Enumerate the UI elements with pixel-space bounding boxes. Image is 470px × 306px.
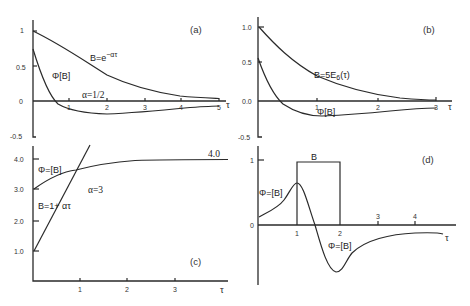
panel-c-asymptote-label: 4.0 xyxy=(208,149,220,159)
panel-a-xtick: 3 xyxy=(143,104,147,111)
panel-a-xtick: 4 xyxy=(179,104,183,111)
panel-a-xtick: 1 xyxy=(67,104,71,111)
panel-c-xtick: 1 xyxy=(78,286,82,293)
panel-a-curve-B xyxy=(33,31,219,99)
panel-b-curve-B xyxy=(259,27,436,100)
panel-d: 1 0 1 2 3 4 τ B Φ=[B] Φ=[B] (d) xyxy=(250,146,456,285)
panel-c-annotation: α=3 xyxy=(88,185,103,195)
panel-d-ytick: 0 xyxy=(250,222,254,229)
panel-b-xtick: 2 xyxy=(376,104,380,111)
panel-b: 1.0 0.5 0.0 -0.5 1 2 3 τ B=5E6(τ) Φ[B] (… xyxy=(238,17,452,141)
panel-c-ytick: 3.0 xyxy=(14,186,24,193)
panel-c-curve-phi xyxy=(34,160,228,190)
panel-a-curve-phi xyxy=(33,49,219,114)
panel-c: 4.0 3.0 2.0 1.0 1 2 3 τ 4.0 Φ=[B] B=1+ α… xyxy=(14,145,228,295)
panel-d-label-B: B xyxy=(311,152,317,162)
panel-c-xlabel: τ xyxy=(220,285,224,295)
panel-d-tag: (d) xyxy=(422,154,434,165)
panel-c-label-phi: Φ=[B] xyxy=(38,165,61,175)
panel-c-ytick: 2.0 xyxy=(14,218,24,225)
panel-d-ytick: 1 xyxy=(250,157,254,164)
panel-a-xtick: 5 xyxy=(217,104,221,111)
panel-c-tag: (c) xyxy=(190,256,201,267)
panel-b-y-axis xyxy=(258,17,262,137)
panel-a-ytick: 0.5 xyxy=(16,64,26,71)
panel-a-ytick: -0.5 xyxy=(10,133,22,140)
panel-b-label-B: B=5E6(τ) xyxy=(314,70,350,81)
panel-b-xlabel: τ xyxy=(448,102,452,112)
panel-c-ytick: 1.0 xyxy=(14,248,24,255)
panel-c-xtick: 3 xyxy=(173,286,177,293)
panel-a-label-B: B=e−ατ xyxy=(90,51,117,63)
panel-b-ytick: -0.5 xyxy=(238,134,250,141)
panel-d-curve-phi xyxy=(259,183,443,272)
panel-b-ytick: 0.5 xyxy=(242,59,252,66)
panel-b-label-phi: Φ[B] xyxy=(317,107,335,117)
panel-c-line-B xyxy=(34,145,90,251)
panel-b-tag: (b) xyxy=(423,24,435,35)
panel-d-xlabel: τ xyxy=(445,233,449,243)
figure-canvas: 1 0.5 0 -0.5 1 2 3 4 5 τ B=e−ατ Φ[B] α=1… xyxy=(0,0,470,306)
panel-c-ytick: 4.0 xyxy=(14,156,24,163)
panel-a: 1 0.5 0 -0.5 1 2 3 4 5 τ B=e−ατ Φ[B] α=1… xyxy=(10,20,230,140)
panel-c-xtick: 2 xyxy=(125,286,129,293)
panel-a-annotation: α=1/2 xyxy=(82,90,105,100)
panel-d-xtick: 1 xyxy=(295,230,299,237)
panel-b-ytick: 1.0 xyxy=(242,24,252,31)
panel-b-ytick: 0.0 xyxy=(242,98,252,105)
panel-d-pulse-B xyxy=(297,162,340,225)
panel-d-xtick: 2 xyxy=(338,230,342,237)
panel-c-label-B: B=1+ ατ xyxy=(38,201,71,211)
panel-d-xtick: 3 xyxy=(376,213,380,220)
panel-a-ytick: 0 xyxy=(19,98,23,105)
panel-a-y-axis xyxy=(33,20,36,137)
panel-a-xlabel: τ xyxy=(226,100,230,110)
panel-a-ytick: 1 xyxy=(20,27,24,34)
panel-d-label-phi-lower: Φ=[B] xyxy=(328,241,351,251)
panel-d-xtick: 4 xyxy=(413,213,417,220)
panel-a-tag: (a) xyxy=(190,24,202,35)
panel-a-xtick: 2 xyxy=(105,104,109,111)
panel-a-label-phi: Φ[B] xyxy=(52,71,70,81)
panel-d-label-phi-upper: Φ=[B] xyxy=(259,188,282,198)
